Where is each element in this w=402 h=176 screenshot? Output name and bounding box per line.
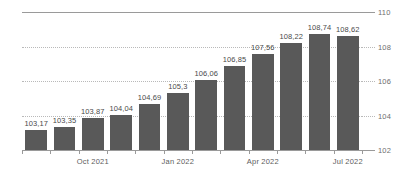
bar-value-label: 106,85 <box>223 55 247 64</box>
bar-value-label: 108,74 <box>308 23 332 32</box>
bar-slot: 108,62 <box>334 12 362 150</box>
bar-value-label: 108,22 <box>279 32 303 41</box>
bar-slot: 104,69 <box>135 12 163 150</box>
bar[interactable] <box>25 130 47 150</box>
bar-series: 103,17103,35103,87104,04104,69105,3106,0… <box>22 12 362 150</box>
bar-chart: 103,17103,35103,87104,04104,69105,3106,0… <box>0 0 402 176</box>
bar[interactable] <box>337 36 359 150</box>
x-tick <box>249 150 250 154</box>
y-tick-110 <box>362 12 375 13</box>
y-tick-106 <box>362 81 375 82</box>
y-axis-label: 108 <box>378 42 391 51</box>
y-axis-label: 110 <box>378 8 391 17</box>
bar-slot: 103,17 <box>22 12 50 150</box>
bar-slot: 108,74 <box>305 12 333 150</box>
x-tick <box>107 150 108 154</box>
bar-slot: 106,85 <box>220 12 248 150</box>
bar[interactable] <box>54 127 76 150</box>
plot-area: 103,17103,35103,87104,04104,69105,3106,0… <box>22 12 362 150</box>
bar-slot: 106,06 <box>192 12 220 150</box>
y-axis-ticks <box>362 12 376 150</box>
bar-value-label: 105,3 <box>168 82 187 91</box>
x-axis-labels: Oct 2021Jan 2022Apr 2022Jul 2022 <box>22 157 362 171</box>
x-tick <box>79 150 80 154</box>
y-tick-104 <box>362 116 375 117</box>
y-tick-108 <box>362 47 375 48</box>
x-tick <box>305 150 306 154</box>
bar-value-label: 104,69 <box>138 93 162 102</box>
bar-value-label: 103,35 <box>53 116 77 125</box>
bar[interactable] <box>280 43 302 150</box>
x-tick <box>362 150 363 154</box>
bar[interactable] <box>195 80 217 150</box>
bar-value-label: 103,17 <box>24 119 48 128</box>
bar-value-label: 108,62 <box>336 25 360 34</box>
y-axis-labels: 102104106108110 <box>378 12 402 150</box>
bar[interactable] <box>252 54 274 150</box>
bar-slot: 107,56 <box>249 12 277 150</box>
bar[interactable] <box>82 118 104 150</box>
bar-value-label: 107,56 <box>251 43 275 52</box>
y-axis-label: 106 <box>378 77 391 86</box>
bar[interactable] <box>167 93 189 150</box>
y-axis-label: 102 <box>378 146 391 155</box>
bar-slot: 105,3 <box>164 12 192 150</box>
y-axis-label: 104 <box>378 111 391 120</box>
x-axis-label: Jul 2022 <box>333 157 363 166</box>
x-tick <box>277 150 278 154</box>
bar-slot: 103,35 <box>50 12 78 150</box>
x-axis-label: Apr 2022 <box>247 157 279 166</box>
bar-value-label: 104,04 <box>109 104 133 113</box>
bar-value-label: 106,06 <box>194 69 218 78</box>
x-tick <box>220 150 221 154</box>
bar[interactable] <box>110 115 132 150</box>
bar[interactable] <box>139 104 161 150</box>
bar-slot: 103,87 <box>79 12 107 150</box>
x-tick <box>192 150 193 154</box>
x-tick <box>164 150 165 154</box>
bar[interactable] <box>309 34 331 150</box>
bar[interactable] <box>224 66 246 150</box>
bar-slot: 108,22 <box>277 12 305 150</box>
x-axis-label: Jan 2022 <box>162 157 194 166</box>
x-tick <box>135 150 136 154</box>
x-tick <box>334 150 335 154</box>
x-tick <box>22 150 23 154</box>
bar-slot: 104,04 <box>107 12 135 150</box>
x-axis-tick-marks <box>22 150 362 156</box>
bar-value-label: 103,87 <box>81 107 105 116</box>
x-axis-label: Oct 2021 <box>77 157 109 166</box>
x-tick <box>50 150 51 154</box>
